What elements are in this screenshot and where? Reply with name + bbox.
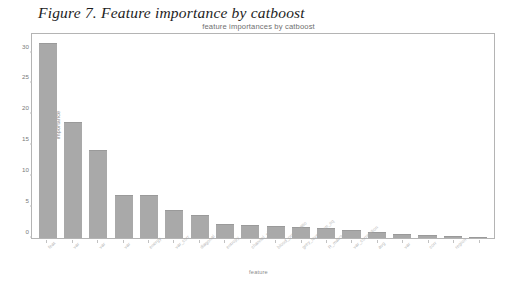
x-tick-mark (377, 240, 378, 243)
bar (393, 234, 411, 238)
bar (140, 195, 158, 238)
bar-slot (35, 34, 60, 238)
chart-title: feature importances by catboost (0, 22, 517, 31)
bar (469, 237, 487, 238)
x-tick-mark (479, 240, 480, 243)
bar (64, 122, 82, 238)
x-axis-title: feature (0, 269, 517, 275)
y-tick-label: 20 (22, 104, 29, 111)
x-tick-mark (173, 240, 174, 243)
x-tick-mark (326, 240, 327, 243)
bar (165, 210, 183, 238)
bar-slot (212, 34, 237, 238)
x-tick-mark (224, 240, 225, 243)
y-tick-label: 10 (22, 166, 29, 173)
bar (39, 43, 57, 238)
y-tick-label: 15 (22, 135, 29, 142)
bar-slot (440, 34, 465, 238)
figure-caption: Figure 7. Feature importance by catboost (38, 4, 305, 22)
bar (418, 235, 436, 238)
x-tick-mark (72, 240, 73, 243)
y-tick-label: 30 (22, 42, 29, 49)
bar (89, 150, 107, 238)
bar (216, 224, 234, 238)
y-tick-label: 25 (22, 73, 29, 80)
bar-slot (339, 34, 364, 238)
bar-slot (364, 34, 389, 238)
x-tick-mark (46, 240, 47, 243)
x-tick-mark (453, 240, 454, 243)
bar (342, 230, 360, 238)
bar-slot (390, 34, 415, 238)
bar-slot (111, 34, 136, 238)
bar (444, 236, 462, 238)
bar (241, 225, 259, 238)
x-tick-mark (97, 240, 98, 243)
y-tick-label: 5 (26, 197, 29, 204)
bar (191, 215, 209, 238)
x-tick-mark (275, 240, 276, 243)
bar-slot (86, 34, 111, 238)
x-tick-mark (351, 240, 352, 243)
bar (115, 195, 133, 238)
x-tick-mark (402, 240, 403, 243)
figure-chart: feature importances by catboost importan… (0, 22, 517, 289)
x-tick-mark (301, 240, 302, 243)
x-tick-mark (428, 240, 429, 243)
bar-slot (314, 34, 339, 238)
x-tick-mark (123, 240, 124, 243)
x-tick-mark (148, 240, 149, 243)
bar-slot (288, 34, 313, 238)
bar-slot (187, 34, 212, 238)
bar-slot (162, 34, 187, 238)
bar-slot (263, 34, 288, 238)
bar-slot (415, 34, 440, 238)
y-tick-label: 0 (26, 228, 29, 235)
bar-slot (60, 34, 85, 238)
bar-series (32, 34, 494, 238)
bar-slot (136, 34, 161, 238)
x-tick-mark (199, 240, 200, 243)
x-tick-mark (250, 240, 251, 243)
bar-slot (238, 34, 263, 238)
plot-area: importance 051015202530 (31, 33, 495, 239)
bar-slot (466, 34, 491, 238)
